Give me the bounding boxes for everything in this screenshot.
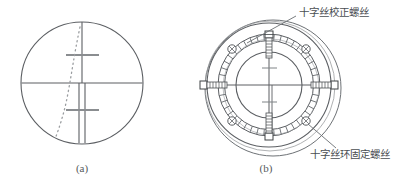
- adjust-screw-top[interactable]: [265, 31, 273, 58]
- annotation-top-label: 十字丝校正螺丝: [299, 6, 369, 18]
- figure-container: (a): [0, 0, 417, 186]
- annotation-bottom-label: 十字丝环固定螺丝: [310, 148, 390, 160]
- panel-a-group: (a): [21, 22, 143, 175]
- technical-diagram: (a): [0, 0, 417, 186]
- adjust-screw-bottom-head: [265, 133, 273, 140]
- adjust-screw-right[interactable]: [311, 81, 338, 89]
- adjust-screw-left-head: [200, 81, 207, 89]
- fixing-screw-top-left[interactable]: [228, 45, 236, 53]
- fixing-screw-bottom-right[interactable]: [302, 117, 310, 125]
- caption-a: (a): [76, 162, 89, 175]
- leader-line-bottom: [308, 124, 336, 148]
- adjust-screw-left[interactable]: [200, 81, 227, 89]
- caption-b: (b): [260, 162, 273, 175]
- adjust-screw-right-head: [331, 81, 338, 89]
- adjust-screw-bottom[interactable]: [265, 113, 273, 140]
- fixing-screw-top-right[interactable]: [302, 45, 310, 53]
- fixing-screw-bottom-left[interactable]: [228, 117, 236, 125]
